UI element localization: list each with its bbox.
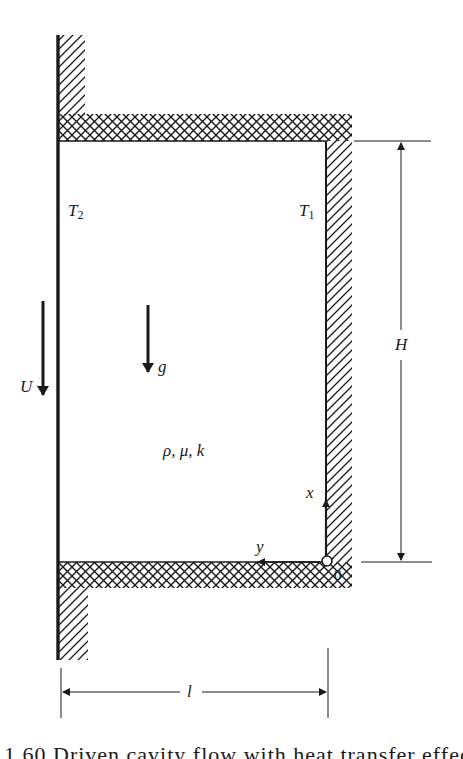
height-dimension-label: H <box>395 336 407 353</box>
left-wall-temperature-label: T2 <box>68 202 83 221</box>
bottom-insulated-wall <box>58 562 352 588</box>
x-axis-label: x <box>306 484 314 501</box>
width-dimension <box>61 648 328 718</box>
fluid-properties-label: ρ, μ, k <box>163 442 204 459</box>
width-dimension-label: l <box>187 683 192 700</box>
right-wall-temperature-label: T1 <box>299 202 314 221</box>
y-axis-label: y <box>256 538 264 555</box>
temp-subscript: 2 <box>77 208 83 222</box>
origin-marker-icon <box>322 556 332 566</box>
right-fixed-wall <box>326 141 352 562</box>
temp-subscript: 1 <box>308 208 314 222</box>
height-dimension <box>354 141 432 562</box>
origin-label: 0 <box>334 568 342 583</box>
wall-velocity-label: U <box>20 378 32 395</box>
figure-caption-partial: 1.60 Driven cavity flow with heat transf… <box>0 740 463 759</box>
lower-left-wall-hatching <box>58 588 88 660</box>
gravity-label: g <box>158 358 167 375</box>
top-insulated-wall <box>58 114 352 141</box>
upper-left-wall-hatching <box>58 35 85 115</box>
